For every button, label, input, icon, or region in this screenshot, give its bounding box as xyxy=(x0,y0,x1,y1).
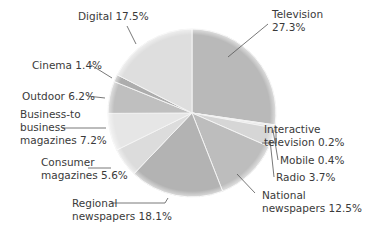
label-business-to-business-magazines: Business-tobusinessmagazines 7.2% xyxy=(20,108,107,146)
label-national-newspapers: Nationalnewspapers 12.5% xyxy=(262,189,362,214)
label-interactive-television: Interactivetelevision 0.2% xyxy=(264,123,345,148)
label-radio: Radio 3.7% xyxy=(276,171,336,183)
label-outdoor: Outdoor 6.2% xyxy=(22,90,95,102)
leader-line xyxy=(127,26,136,44)
label-consumer-magazines: Consumermagazines 5.6% xyxy=(41,156,128,181)
label-television: Television27.3% xyxy=(271,8,323,33)
label-mobile: Mobile 0.4% xyxy=(280,154,344,166)
label-digital: Digital 17.5% xyxy=(78,10,149,22)
label-regional-newspapers: Regionalnewspapers 18.1% xyxy=(72,197,172,222)
leader-line xyxy=(111,198,168,203)
pie-chart: Television27.3%Interactivetelevision 0.2… xyxy=(0,0,368,230)
pie-rim-highlight xyxy=(108,29,276,197)
label-cinema: Cinema 1.4% xyxy=(32,59,102,71)
